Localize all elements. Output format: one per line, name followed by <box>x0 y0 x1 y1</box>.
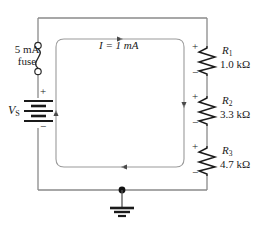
resistor-2-plus-sign: + <box>192 91 198 102</box>
resistor-1-value: 1.0 kΩ <box>220 59 250 71</box>
resistor-3-minus-sign: − <box>192 167 198 178</box>
voltage-source-subscript: S <box>15 109 20 118</box>
fuse-rating: 5 mA <box>15 43 40 55</box>
resistor-1-minus-sign: − <box>192 67 198 78</box>
resistor-1-name: R1 <box>222 45 232 58</box>
resistor-3-name: R3 <box>222 145 232 158</box>
fuse-label: 5 mA fuse <box>5 44 49 67</box>
resistor-3-plus-sign: + <box>192 141 198 152</box>
battery-symbol <box>24 101 53 121</box>
circuit-diagram-canvas: 5 mA fuse VS + − I = 1 mA R1 1.0 kΩ + − … <box>0 0 258 233</box>
current-loop-path <box>56 39 184 167</box>
current-label: I = 1 mA <box>99 40 139 52</box>
voltage-source-label: VS <box>8 104 20 119</box>
source-plus-sign: + <box>40 86 46 97</box>
earth-ground-symbol <box>110 187 134 216</box>
resistor-2-symbol <box>199 96 215 126</box>
resistor-3-value: 4.7 kΩ <box>220 159 250 171</box>
resistor-2-name: R2 <box>222 95 232 108</box>
resistor-2-minus-sign: − <box>192 117 198 128</box>
resistor-3-symbol <box>199 146 215 176</box>
resistor-1-symbol <box>199 46 215 76</box>
fuse-name: fuse <box>18 55 36 67</box>
resistor-1-plus-sign: + <box>192 41 198 52</box>
source-minus-sign: − <box>40 121 46 132</box>
resistor-2-value: 3.3 kΩ <box>220 109 250 121</box>
